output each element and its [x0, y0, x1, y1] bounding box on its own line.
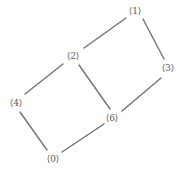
edge-group: [20, 18, 164, 152]
graph-diagram-canvas: ⟨1⟩⟨2⟩⟨3⟩⟨4⟩⟨6⟩⟨0⟩: [0, 0, 188, 176]
graph-edge: [122, 78, 161, 111]
graph-edge: [143, 19, 164, 59]
graph-edge: [20, 112, 47, 150]
graph-edge: [25, 64, 63, 94]
graph-edge: [79, 65, 110, 109]
graph-node-3: ⟨3⟩: [162, 64, 175, 73]
graph-node-4: ⟨4⟩: [10, 99, 23, 108]
graph-edges-layer: [0, 0, 188, 176]
graph-node-6: ⟨6⟩: [106, 114, 119, 123]
graph-node-2: ⟨2⟩: [67, 52, 80, 61]
graph-edge: [84, 18, 126, 48]
graph-node-0: ⟨0⟩: [47, 155, 60, 164]
graph-node-1: ⟨1⟩: [129, 7, 142, 16]
graph-edge: [62, 124, 104, 152]
